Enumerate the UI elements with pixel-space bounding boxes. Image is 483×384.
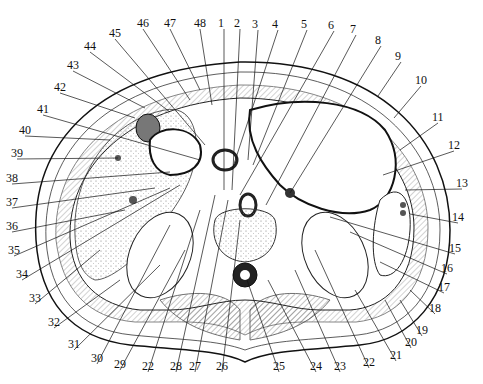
label-17: 17 — [438, 281, 450, 293]
label-40: 40 — [19, 124, 31, 136]
label-30: 30 — [91, 352, 103, 364]
label-12: 12 — [448, 139, 460, 151]
label-45: 45 — [109, 27, 121, 39]
label-43: 43 — [67, 59, 79, 71]
label-38: 38 — [6, 172, 18, 184]
vessel — [400, 210, 406, 216]
label-24: 24 — [310, 360, 322, 372]
label-14: 14 — [452, 211, 464, 223]
label-37: 37 — [6, 196, 18, 208]
spinal-cord — [240, 270, 250, 280]
label-23: 23 — [334, 360, 346, 372]
label-7: 7 — [350, 23, 356, 35]
label-29: 29 — [114, 358, 126, 370]
label-46: 46 — [137, 17, 149, 29]
label-33: 33 — [29, 292, 41, 304]
label-11: 11 — [432, 111, 444, 123]
label-34: 34 — [16, 268, 28, 280]
label-22: 22 — [142, 360, 154, 372]
label-18: 18 — [429, 302, 441, 314]
duodenum — [150, 129, 201, 175]
label-35: 35 — [8, 244, 20, 256]
label-42: 42 — [54, 81, 66, 93]
label-5: 5 — [301, 18, 307, 30]
label-32: 32 — [48, 316, 60, 328]
label-13: 13 — [456, 177, 468, 189]
label-39: 39 — [11, 147, 23, 159]
label-2: 2 — [234, 17, 240, 29]
label-48: 48 — [194, 17, 206, 29]
label-28: 28 — [170, 360, 182, 372]
label-3: 3 — [252, 18, 258, 30]
label-15: 15 — [449, 242, 461, 254]
label-21: 21 — [390, 349, 402, 361]
label-22: 22 — [363, 356, 375, 368]
label-20: 20 — [405, 336, 417, 348]
label-19: 19 — [416, 324, 428, 336]
label-1: 1 — [218, 17, 224, 29]
label-25: 25 — [273, 360, 285, 372]
label-41: 41 — [37, 103, 49, 115]
label-16: 16 — [441, 262, 453, 274]
label-44: 44 — [84, 40, 96, 52]
label-26: 26 — [216, 360, 228, 372]
vessel — [400, 202, 406, 208]
leader-line — [378, 62, 401, 96]
label-47: 47 — [164, 17, 176, 29]
label-36: 36 — [6, 220, 18, 232]
leader-line — [394, 86, 421, 118]
label-6: 6 — [328, 19, 334, 31]
label-27: 27 — [189, 360, 201, 372]
label-4: 4 — [272, 18, 278, 30]
label-8: 8 — [375, 34, 381, 46]
label-31: 31 — [68, 338, 80, 350]
label-10: 10 — [415, 74, 427, 86]
label-9: 9 — [395, 50, 401, 62]
